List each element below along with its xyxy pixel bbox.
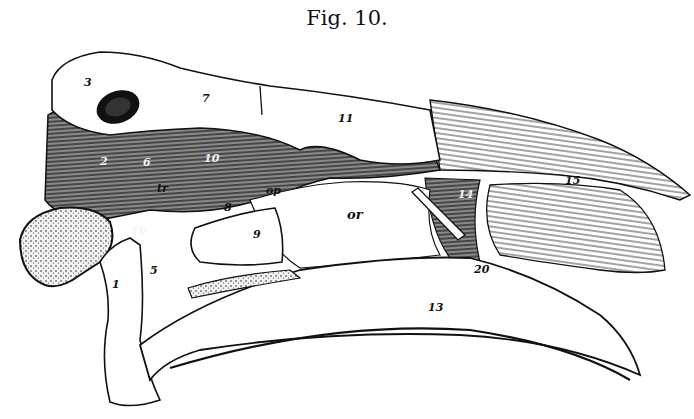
- label-5: 5: [150, 264, 158, 277]
- bone-9: [191, 208, 283, 265]
- label-15: 15: [565, 174, 580, 187]
- skull-illustration: 1 2 3 5 6 7 8 9 10 11 13 14 15 16 20 tr …: [0, 0, 694, 419]
- label-11: 11: [338, 112, 353, 125]
- label-6: 6: [143, 156, 151, 169]
- label-7: 7: [202, 92, 210, 105]
- label-9: 9: [253, 228, 261, 241]
- label-tr: tr: [157, 182, 169, 195]
- label-op: op: [266, 184, 281, 197]
- label-13: 13: [428, 301, 444, 314]
- mandible-13: [140, 258, 640, 381]
- label-2: 2: [99, 155, 108, 168]
- label-1: 1: [112, 278, 120, 291]
- label-20: 20: [473, 263, 490, 276]
- beak-lower-hatched: [487, 183, 665, 272]
- label-8: 8: [224, 201, 232, 214]
- occipital-condyle: [20, 208, 112, 287]
- label-10: 10: [204, 152, 220, 165]
- label-3: 3: [84, 76, 92, 89]
- label-16: 16: [131, 224, 147, 237]
- label-or: or: [347, 207, 364, 222]
- label-14: 14: [458, 188, 473, 201]
